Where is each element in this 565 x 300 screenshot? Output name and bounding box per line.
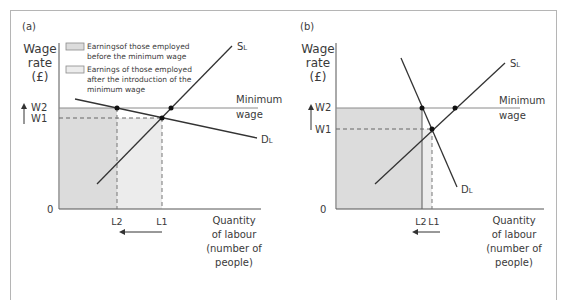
- panel-a-tag: (a): [22, 21, 36, 32]
- point-supply-w2: [453, 106, 458, 111]
- x-axis-label-line1: Quantity: [492, 215, 535, 226]
- legend-before-line2: before the minimum wage: [87, 52, 187, 61]
- y-axis-label-line1: Wage: [23, 42, 56, 56]
- legend-before-line1: Earningsof those employed: [87, 42, 190, 51]
- shade-after-min-wage: [60, 108, 117, 209]
- up-arrow-icon: [308, 104, 314, 110]
- up-arrow-icon: [21, 103, 27, 109]
- minimum-wage-label-line1: Minimum: [236, 94, 282, 105]
- demand-label: DL: [461, 184, 473, 195]
- y-axis-label-line3: (£): [32, 70, 49, 84]
- legend-after-line1: Earnings of those employed: [87, 65, 192, 74]
- demand-label: DL: [261, 134, 273, 145]
- l1-label: L1: [428, 216, 439, 227]
- w2-label: W2: [315, 102, 331, 113]
- l2-label: L2: [111, 216, 122, 227]
- w2-label: W2: [31, 102, 47, 113]
- w1-label: W1: [31, 113, 47, 124]
- legend-after-line3: minimum wage: [87, 85, 145, 94]
- y-axis-label-line3: (£): [310, 70, 327, 84]
- minimum-wage-label-line2: wage: [499, 110, 526, 121]
- x-axis-label-line2: of labour: [492, 229, 538, 240]
- shade-after-min-wage: [337, 108, 422, 209]
- point-equilibrium: [430, 127, 435, 132]
- shade-before-min-wage-extra: [422, 129, 432, 209]
- point-supply-w2: [169, 106, 174, 111]
- panel-b: (b) Wage rate (£) 0 W2 W1 L2 L1 SL DL Mi…: [300, 21, 545, 268]
- x-axis-label-line3: (number of: [486, 243, 542, 254]
- panel-a: (a) Wage rate (£) Earningsof those emplo…: [21, 21, 282, 268]
- y-axis-label-line2: rate: [306, 56, 330, 70]
- left-arrow-icon: [412, 229, 418, 235]
- l2-label: L2: [415, 216, 426, 227]
- panel-b-tag: (b): [300, 21, 314, 32]
- legend-swatch-after: [66, 66, 84, 73]
- x-axis-label-line2: of labour: [212, 229, 258, 240]
- y-axis-label-line2: rate: [28, 56, 52, 70]
- l1-label: L1: [156, 216, 167, 227]
- x-axis-label-line1: Quantity: [212, 215, 255, 226]
- legend-swatch-before: [66, 43, 84, 50]
- shade-before-min-wage-extra: [117, 118, 162, 209]
- x-axis-label-line3: (number of: [206, 243, 262, 254]
- origin-label: 0: [47, 204, 53, 215]
- point-l2-w2: [420, 106, 425, 111]
- x-axis-label-line4: people): [495, 257, 533, 268]
- point-l2-w2: [115, 106, 120, 111]
- point-equilibrium: [160, 116, 165, 121]
- w1-label: W1: [315, 124, 331, 135]
- origin-label: 0: [320, 204, 326, 215]
- minimum-wage-label-line2: wage: [236, 109, 263, 120]
- left-arrow-icon: [119, 229, 125, 235]
- legend-after-line2: after the introduction of the: [87, 75, 192, 84]
- y-axis-label-line1: Wage: [301, 42, 334, 56]
- supply-label: SL: [237, 41, 247, 52]
- minimum-wage-label-line1: Minimum: [499, 95, 545, 106]
- supply-label: SL: [510, 58, 520, 69]
- x-axis-label-line4: people): [215, 257, 253, 268]
